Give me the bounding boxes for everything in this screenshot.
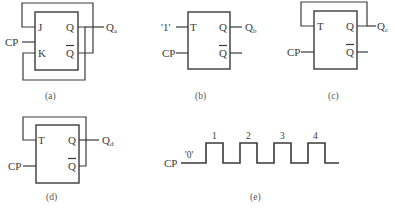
q-pin-label: Q [68,134,76,146]
caption-b: (b) [195,91,206,102]
t-pin-label: T [38,134,45,146]
cp-label: CP [287,46,300,58]
figure-d-t-flip-flop: T CP Q Q Qd (d) [8,117,114,203]
q-to-k-feedback-wire [23,27,85,80]
figure-b-t-flip-flop: '1' T CP Q Q Qb (b) [161,12,257,102]
qa-output-label: Qa [106,21,118,35]
caption-e: (e) [250,192,261,203]
qb-output-label: Qb [245,21,257,35]
cp-signal-label: CP [164,157,177,169]
qbar-pin-label: Q [68,160,76,172]
cp-label: CP [162,47,175,59]
clock-pulse-train [181,143,339,163]
q-pin-label: Q [346,20,354,32]
qc-output-label: Qc [377,20,388,34]
q-pin-label: Q [219,21,227,33]
flip-flop-diagram: J K CP Q Q Qa (a) '1' T CP Q Q Qb (b) T … [0,0,395,211]
pulse-label-1: 1 [212,131,217,141]
t-pin-label: T [317,20,324,32]
cp-label: CP [8,160,21,172]
qbar-pin-label: Q [66,47,74,59]
qd-output-label: Qd [102,134,114,148]
caption-d: (d) [46,192,57,203]
qbar-pin-label: Q [219,47,227,59]
pulse-label-4: 4 [313,131,318,141]
t-pin-label: T [190,21,197,33]
qbar-pin-label: Q [346,46,354,58]
q-pin-label: Q [66,21,74,33]
k-pin-label: K [38,47,46,59]
pulse-label-3: 3 [280,131,285,141]
initial-zero-label: '0' [185,150,193,160]
figure-c-t-flip-flop: T CP Q Q Qc (c) [287,2,388,102]
const-one-label: '1' [161,21,170,33]
figure-e-cp-waveform: CP '0' 1 2 3 4 (e) [164,131,339,203]
figure-a-jk-flip-flop: J K CP Q Q Qa (a) [5,3,118,102]
pulse-label-2: 2 [246,131,251,141]
caption-c: (c) [328,91,339,102]
qbar-to-j-feedback-wire [22,3,93,53]
cp-label: CP [5,36,18,48]
caption-a: (a) [45,91,56,102]
j-pin-label: J [38,21,43,33]
